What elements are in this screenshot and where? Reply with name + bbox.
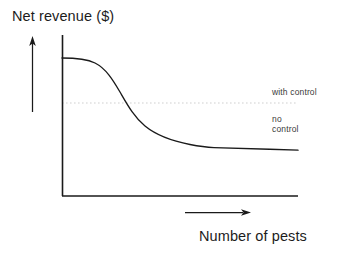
y-axis-direction-arrow xyxy=(29,36,36,112)
net-revenue-pests-chart: Net revenue ($) Number of pests with con… xyxy=(0,0,341,257)
no-control-label-line1: no xyxy=(272,114,282,124)
no-control-revenue-curve xyxy=(62,58,298,150)
with-control-label: with control xyxy=(272,88,317,98)
x-axis-title: Number of pests xyxy=(199,228,307,245)
no-control-label-line2: control xyxy=(272,124,299,134)
no-control-label: nocontrol xyxy=(272,115,299,135)
x-axis-direction-arrow xyxy=(185,209,251,216)
y-axis-title: Net revenue ($) xyxy=(12,8,114,25)
